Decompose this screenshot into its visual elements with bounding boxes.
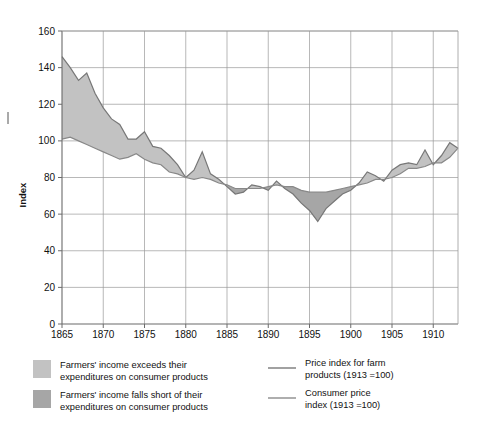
legend-label-income-exceeds-line2: expenditures on consumer products: [60, 372, 208, 382]
y-tick-label-20: 20: [44, 282, 56, 293]
x-tick-label-1905: 1905: [381, 329, 404, 340]
gridlines-group: [62, 31, 458, 324]
x-tick-label-1870: 1870: [92, 329, 115, 340]
band-income-exceeds-6: [356, 172, 381, 185]
legend-label-consumer-price-line2: index (1913 =100): [305, 400, 380, 410]
y-tick-label-100: 100: [38, 135, 55, 146]
x-tick-label-1880: 1880: [175, 329, 198, 340]
x-tick-label-1895: 1895: [298, 329, 321, 340]
y-tick-label-120: 120: [38, 99, 55, 110]
y-tick-label-0: 0: [49, 319, 55, 330]
x-tick-label-1900: 1900: [340, 329, 363, 340]
x-tick-labels-group: 1865187018751880188518901895190019051910: [51, 324, 445, 340]
x-tick-label-1865: 1865: [51, 329, 74, 340]
x-tick-label-1875: 1875: [133, 329, 156, 340]
price-index-area-chart: 020406080100120140160 186518701875188018…: [0, 0, 480, 445]
legend-label-farm-products-line1: Price index for farm: [305, 358, 386, 368]
x-tick-label-1910: 1910: [422, 329, 445, 340]
band-income-exceeds-8: [385, 150, 432, 179]
legend-label-farm-products-line2: products (1913 =100): [305, 370, 394, 380]
y-tick-label-80: 80: [44, 172, 56, 183]
legend-label-income-falls-short-line1: Farmers' income falls short of their: [60, 390, 202, 400]
band-income-exceeds-0: [62, 57, 224, 185]
legend-label-income-falls-short-line2: expenditures on consumer products: [60, 402, 208, 412]
band-income-falls-short-5: [282, 185, 356, 221]
figure-container: 020406080100120140160 186518701875188018…: [0, 0, 480, 445]
y-tick-label-160: 160: [38, 26, 55, 37]
x-tick-label-1890: 1890: [257, 329, 280, 340]
legend-swatch-income-falls-short: [33, 390, 51, 408]
y-axis-title: Index: [17, 182, 28, 208]
y-tick-label-60: 60: [44, 209, 56, 220]
y-tick-labels-group: 020406080100120140160: [38, 26, 62, 330]
legend-label-income-exceeds-line1: Farmers' income exceeds their: [60, 360, 187, 370]
y-tick-label-140: 140: [38, 62, 55, 73]
legend-swatch-income-exceeds: [33, 360, 51, 378]
band-fills-group: [62, 57, 458, 222]
x-tick-label-1885: 1885: [216, 329, 239, 340]
legend: Farmers' income exceeds their expenditur…: [33, 358, 394, 412]
y-tick-label-40: 40: [44, 245, 56, 256]
legend-label-consumer-price-line1: Consumer price: [305, 388, 371, 398]
